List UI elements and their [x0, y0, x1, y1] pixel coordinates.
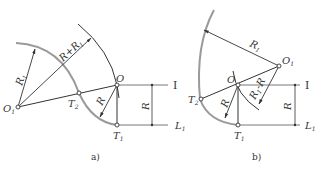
point-t2 [77, 91, 81, 95]
tangent-arc-construction-figure: O1 O T1 T2 R1 R+R1 R R I L1 a) [0, 0, 322, 170]
label-line-i: I [305, 79, 309, 92]
label-o1: O1 [3, 103, 15, 115]
panel-b: O1 O T1 T2 R1 R1-R R R I L1 b) [188, 10, 315, 162]
label-t1: T1 [113, 130, 124, 142]
label-r1: R1 [13, 72, 28, 87]
caption-b: b) [252, 152, 261, 162]
label-t1: T1 [234, 130, 245, 142]
arc-r-plus-r1 [78, 24, 119, 98]
caption-a: a) [91, 152, 100, 162]
label-t2: T2 [188, 94, 199, 106]
point-t2 [199, 97, 203, 101]
label-l1: L1 [174, 120, 185, 132]
panel-a: O1 O T1 T2 R1 R+R1 R R I L1 a) [3, 24, 185, 162]
label-l1: L1 [304, 120, 315, 132]
radius-r1-arrow [204, 30, 279, 66]
label-t2: T2 [68, 98, 79, 110]
line-t2-o1 [201, 66, 279, 99]
point-t1 [236, 123, 240, 127]
label-line-i: I [173, 79, 177, 92]
label-r1-minus-r: R1-R [247, 76, 269, 103]
point-o [236, 83, 240, 87]
label-r-dimension: R [282, 102, 293, 111]
label-o1: O1 [282, 55, 294, 67]
point-o1 [277, 64, 281, 68]
label-r-dimension: R [140, 102, 151, 111]
point-o1 [16, 105, 20, 109]
label-r1: R1 [247, 37, 263, 53]
point-t1 [115, 123, 119, 127]
arc-r1-gray [199, 10, 238, 125]
label-r: R [218, 97, 231, 109]
label-o: O [227, 74, 235, 85]
label-o: O [116, 73, 124, 84]
label-r-plus-r1: R+R1 [56, 37, 85, 65]
